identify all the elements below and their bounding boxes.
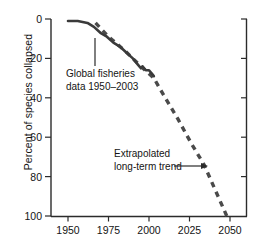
x-axis-ticks — [68, 217, 230, 222]
extrapolated-leader-arrow — [174, 163, 208, 169]
axes-spines — [51, 19, 247, 217]
series-global-fisheries — [68, 21, 154, 76]
series-extrapolated-trend — [96, 23, 227, 216]
plot-area — [0, 0, 258, 249]
y-axis-ticks — [45, 19, 51, 216]
chart-figure: Percent of species collapsed 0 20 40 60 … — [0, 0, 258, 249]
